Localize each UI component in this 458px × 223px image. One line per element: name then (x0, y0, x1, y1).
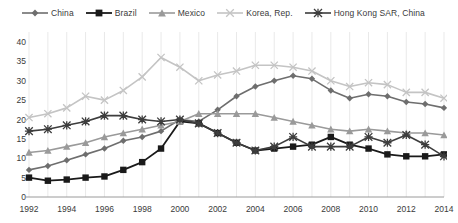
legend-marker-square-icon (86, 7, 112, 19)
data-point (346, 95, 352, 101)
data-point (365, 91, 371, 97)
data-point (327, 143, 335, 151)
legend-label: Brazil (115, 8, 137, 18)
legend-label: China (51, 8, 74, 18)
data-point (328, 134, 334, 140)
legend-item-china[interactable]: China (22, 7, 74, 19)
x-axis-tick-label: 2002 (203, 205, 233, 214)
data-point (64, 176, 70, 182)
data-point (441, 105, 447, 111)
legend-marker-diamond-icon (22, 7, 48, 19)
data-point (120, 167, 126, 173)
data-point (45, 178, 51, 184)
data-point (251, 146, 259, 154)
data-point (289, 133, 297, 141)
x-axis-tick-label: 2006 (278, 205, 308, 214)
legend-marker-asterisk-icon (305, 7, 331, 19)
data-point (64, 157, 70, 163)
legend-label: Hong Kong SAR, China (334, 8, 425, 18)
data-point (100, 112, 108, 120)
x-axis-tick-label: 2004 (240, 205, 270, 214)
data-point (195, 119, 203, 127)
x-axis-tick-label: 1996 (89, 205, 119, 214)
legend-label: Korea, Rep. (246, 8, 292, 18)
data-point (157, 117, 165, 125)
data-point (384, 151, 390, 157)
data-point (101, 145, 107, 151)
chart-legend: ChinaBrazilMexicoKorea, Rep.Hong Kong SA… (0, 4, 447, 22)
data-point (364, 133, 372, 141)
data-point (232, 139, 240, 147)
data-point (365, 145, 371, 151)
data-point (82, 174, 88, 180)
x-axis-tick-label: 1992 (14, 205, 44, 214)
data-point (252, 83, 258, 89)
data-point (290, 143, 296, 149)
data-point (422, 153, 428, 159)
data-point (158, 145, 164, 151)
legend-item-korea-rep[interactable]: Korea, Rep. (217, 7, 292, 19)
data-point (271, 78, 277, 84)
data-point (214, 129, 222, 137)
data-point (384, 93, 390, 99)
data-point (82, 151, 88, 157)
x-axis-tick-label: 2012 (391, 205, 421, 214)
data-point (120, 138, 126, 144)
x-axis-tick-label: 2000 (165, 205, 195, 214)
data-point (422, 101, 428, 107)
data-point (270, 143, 278, 151)
data-point (119, 112, 127, 120)
x-axis-tick-label: 1998 (127, 205, 157, 214)
plot-area: 0510152025303540 19921994199619982000200… (0, 24, 447, 223)
data-point (101, 173, 107, 179)
data-point (403, 99, 409, 105)
data-point (421, 141, 429, 149)
legend-item-mexico[interactable]: Mexico (149, 7, 206, 19)
data-point (139, 134, 145, 140)
data-point (176, 115, 184, 123)
x-axis-tick-label: 2008 (316, 205, 346, 214)
legend-marker-cross-icon (217, 7, 243, 19)
data-point (44, 125, 52, 133)
data-point (138, 115, 146, 123)
data-point (383, 139, 391, 147)
chart-svg (0, 24, 447, 223)
legend-label: Mexico (178, 8, 206, 18)
data-point (402, 131, 410, 139)
data-point (26, 174, 32, 180)
legend-item-hong-kong-sar-china[interactable]: Hong Kong SAR, China (305, 7, 425, 19)
data-point (26, 167, 32, 173)
legend-marker-triangle-icon (149, 7, 175, 19)
data-point (346, 143, 354, 151)
data-point (81, 117, 89, 125)
data-point (139, 159, 145, 165)
data-point (63, 121, 71, 129)
data-point (45, 163, 51, 169)
x-axis-tick-label: 2010 (354, 205, 384, 214)
x-axis-tick-label: 1994 (52, 205, 82, 214)
legend-item-brazil[interactable]: Brazil (86, 7, 137, 19)
data-point (403, 153, 409, 159)
data-point (25, 127, 33, 135)
x-axis-labels: 1992199419961998200020022004200620082010… (0, 24, 447, 44)
plot-canvas (0, 24, 447, 223)
x-axis-tick-label: 2014 (429, 205, 458, 214)
data-point (308, 143, 316, 151)
data-point (290, 73, 296, 79)
